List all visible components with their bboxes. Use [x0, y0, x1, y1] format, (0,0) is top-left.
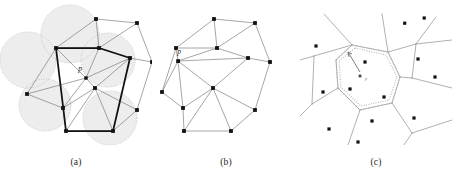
caption-a: (a) [0, 157, 152, 167]
new-voronoi-cell [336, 45, 400, 110]
point-label-p: p [176, 47, 181, 56]
panel-a: p (a) [0, 0, 152, 171]
insert-point-p [84, 76, 87, 79]
figure-root: p (a) [0, 0, 452, 171]
panel-a-canvas: p [0, 0, 152, 145]
insert-site-arrow [348, 52, 360, 72]
site-group [314, 16, 436, 143]
panel-b: p (b) [152, 0, 300, 171]
new-site-p [359, 75, 362, 78]
circumcircle-group [0, 5, 137, 145]
caption-b: (b) [152, 157, 300, 167]
point-label-p: p [364, 76, 368, 81]
point-label-p: p [77, 64, 82, 73]
voronoi-edges [300, 14, 452, 145]
insert-point-p [176, 59, 180, 63]
panel-c: p (c) [300, 0, 452, 171]
panel-b-canvas: p [152, 0, 300, 145]
vertex-group [160, 17, 272, 133]
panel-c-canvas: p [300, 0, 452, 145]
triangulation-edges [162, 19, 270, 131]
caption-c: (c) [300, 157, 452, 167]
